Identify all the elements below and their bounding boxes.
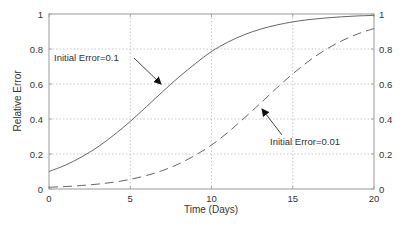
annotation-label-initial-error-0-1: Initial Error=0.1 — [54, 52, 119, 63]
axis-ticks: 0510152000.20.40.60.8100.20.40.60.81 — [30, 9, 392, 205]
arrow-icon — [262, 109, 282, 135]
y-tick-label-left: 0.8 — [30, 44, 43, 55]
y-tick-label-left: 0.2 — [30, 149, 43, 160]
y-tick-label-right: 1 — [379, 9, 384, 20]
x-axis-label: Time (Days) — [184, 204, 238, 215]
y-tick-label-right: 0.6 — [379, 79, 392, 90]
y-tick-label-left: 0.6 — [30, 79, 43, 90]
y-tick-label-right: 0.2 — [379, 149, 392, 160]
x-tick-label: 20 — [369, 193, 380, 204]
x-tick-label: 5 — [128, 193, 133, 204]
y-tick-label-right: 0.8 — [379, 44, 392, 55]
y-tick-label-left: 0.4 — [30, 114, 43, 125]
grid-lines — [49, 14, 374, 189]
annotation-1: Initial Error=0.1 — [54, 52, 161, 84]
y-axis-label: Relative Error — [12, 70, 23, 132]
y-tick-label-left: 0 — [38, 184, 43, 195]
arrow-icon — [134, 58, 161, 84]
x-tick-label: 15 — [287, 193, 298, 204]
y-tick-label-left: 1 — [38, 9, 43, 20]
annotation-2: Initial Error=0.01 — [262, 109, 340, 147]
annotation-label-initial-error-0-01: Initial Error=0.01 — [270, 136, 340, 147]
chart-canvas: 0510152000.20.40.60.8100.20.40.60.81 Ini… — [0, 0, 403, 226]
x-tick-label: 0 — [46, 193, 51, 204]
y-tick-label-right: 0 — [379, 184, 384, 195]
y-tick-label-right: 0.4 — [379, 114, 392, 125]
x-tick-label: 10 — [206, 193, 217, 204]
